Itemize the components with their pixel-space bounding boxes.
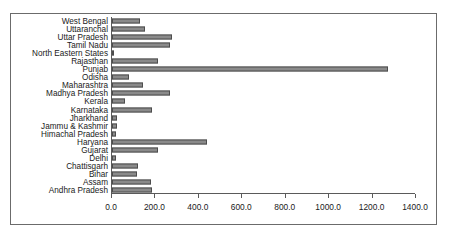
x-axis-tick-label: 1200.0 [359, 202, 385, 212]
x-axis-tick [111, 194, 112, 198]
bar [112, 115, 117, 120]
bar-row: Rajasthan [111, 57, 415, 65]
bar [112, 91, 170, 96]
bar [112, 187, 152, 192]
bar-row: Jharkhand [111, 114, 415, 122]
bar-row: Kerala [111, 97, 415, 105]
bar [112, 107, 152, 112]
x-axis-tick-label: 200.0 [144, 202, 165, 212]
x-axis-tick-label: 0.0 [105, 202, 117, 212]
chart-frame: West BengalUttaranchalUttar PradeshTamil… [10, 13, 437, 225]
bar [112, 163, 138, 168]
x-axis-tick-label: 600.0 [231, 202, 252, 212]
bar [112, 19, 140, 24]
bar [112, 171, 137, 176]
bar-row: Madhya Pradesh [111, 89, 415, 97]
x-axis-tick-label: 400.0 [187, 202, 208, 212]
bar-row: Maharashtra [111, 81, 415, 89]
bar-row: Chattisgarh [111, 162, 415, 170]
bar-row: Tamil Nadu [111, 41, 415, 49]
bar-row: North Eastern States [111, 49, 415, 57]
x-axis-tick [328, 194, 329, 198]
bar-row: Gujarat [111, 146, 415, 154]
bar-row: Delhi [111, 154, 415, 162]
bar-row: Assam [111, 178, 415, 186]
bar [112, 155, 116, 160]
bar [112, 179, 151, 184]
x-axis-tick [415, 194, 416, 198]
bar [112, 35, 172, 40]
bar-row: Uttar Pradesh [111, 33, 415, 41]
bar-row: Uttaranchal [111, 25, 415, 33]
bar [112, 147, 158, 152]
bar [112, 51, 114, 56]
bar [112, 27, 145, 32]
bar [112, 67, 388, 72]
plot-area: West BengalUttaranchalUttar PradeshTamil… [111, 17, 415, 194]
x-axis-tick-label: 1400.0 [402, 202, 428, 212]
bar-row: Haryana [111, 138, 415, 146]
bar-row: Bihar [111, 170, 415, 178]
bar [112, 75, 129, 80]
bar-row: Himachal Pradesh [111, 130, 415, 138]
bar [112, 139, 207, 144]
bar [112, 123, 117, 128]
x-axis-tick-label: 800.0 [274, 202, 295, 212]
bar-row: Andhra Pradesh [111, 186, 415, 194]
x-axis-tick [198, 194, 199, 198]
bar-row: Karnataka [111, 106, 415, 114]
bar-row: Punjab [111, 65, 415, 73]
bar-row: Jammu & Kashmir [111, 122, 415, 130]
bar [112, 43, 170, 48]
bar [112, 59, 158, 64]
x-axis-tick [241, 194, 242, 198]
x-axis-tick-label: 1000.0 [315, 202, 341, 212]
x-axis-tick [154, 194, 155, 198]
x-axis-tick [372, 194, 373, 198]
bar-row: Odisha [111, 73, 415, 81]
category-label: Andhra Pradesh [49, 185, 108, 194]
bar [112, 99, 125, 104]
bar [112, 83, 143, 88]
bar [112, 131, 116, 136]
x-axis-tick [285, 194, 286, 198]
bar-row: West Bengal [111, 17, 415, 25]
